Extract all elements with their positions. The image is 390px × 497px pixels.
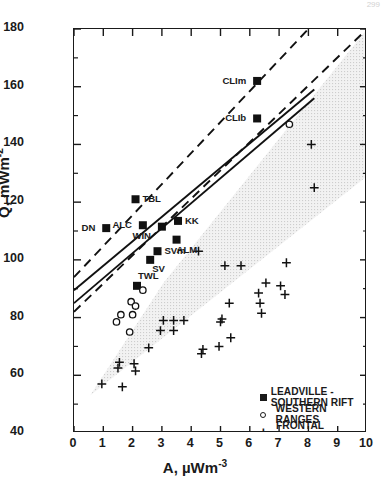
- point-label-WIN: WIN: [133, 231, 151, 241]
- data-point-plus: [131, 367, 140, 376]
- y-tick-40: 40: [0, 424, 24, 438]
- point-label-CLIb: CLIb: [225, 113, 246, 123]
- data-point-filled-square: [132, 195, 140, 203]
- point-label-TWL: TWL: [138, 271, 158, 281]
- point-label-ALC: ALC: [112, 220, 131, 230]
- data-point-filled-square: [253, 77, 261, 85]
- data-point-plus: [257, 309, 266, 318]
- y-tick-60: 60: [0, 366, 24, 380]
- data-point-filled-square: [139, 221, 147, 229]
- x-axis-title-exponent: -3: [218, 458, 227, 469]
- data-point-open-circle: [118, 311, 124, 317]
- data-point-open-circle: [286, 121, 292, 127]
- plus-icon: +: [260, 428, 276, 433]
- chart-legend: LEADVILLE - SOUTHERN RIFT WESTERN RANGES…: [260, 389, 365, 432]
- y-axis-title-exponent: -2: [0, 148, 5, 157]
- y-tick-120: 120: [0, 193, 24, 207]
- data-point-open-circle: [113, 319, 119, 325]
- x-tick-10: 10: [351, 436, 381, 450]
- y-tick-100: 100: [0, 251, 24, 265]
- x-tick-3: 3: [146, 436, 176, 450]
- open-circle-icon: [260, 412, 276, 418]
- point-label-TBL: TBL: [143, 194, 161, 204]
- plot-canvas: [74, 29, 366, 432]
- data-point-plus: [282, 258, 291, 267]
- data-point-open-circle: [140, 287, 146, 293]
- x-tick-1: 1: [87, 436, 117, 450]
- x-axis-title: A, µWm-3: [0, 458, 390, 476]
- data-point-plus: [254, 289, 263, 298]
- data-point-plus: [262, 279, 271, 288]
- point-label-SVm: SVm: [165, 246, 186, 256]
- x-tick-6: 6: [234, 436, 264, 450]
- legend-item-frontal-ranges: + FRONTAL RANGES: [260, 423, 365, 432]
- data-point-plus: [215, 342, 224, 351]
- y-axis-title: Q, mWm-2: [0, 148, 12, 218]
- x-tick-0: 0: [58, 436, 88, 450]
- data-point-plus: [256, 299, 265, 308]
- data-point-plus: [118, 382, 127, 391]
- data-point-plus: [276, 281, 285, 290]
- x-tick-8: 8: [292, 436, 322, 450]
- data-point-filled-square: [102, 224, 110, 232]
- running-head: [14, 0, 314, 11]
- x-tick-5: 5: [205, 436, 235, 450]
- y-tick-180: 180: [0, 20, 24, 34]
- x-tick-7: 7: [263, 436, 293, 450]
- point-label-CLIm: CLIm: [223, 76, 247, 86]
- y-tick-80: 80: [0, 309, 24, 323]
- data-point-plus: [197, 349, 206, 358]
- data-point-open-circle: [126, 329, 132, 335]
- filled-square-icon: [260, 394, 271, 401]
- legend-label-frontal-ranges: FRONTAL RANGES: [276, 421, 365, 432]
- x-axis-title-base: A, µWm: [163, 459, 218, 476]
- x-tick-4: 4: [175, 436, 205, 450]
- data-point-filled-square: [253, 114, 261, 122]
- data-point-filled-square: [154, 247, 162, 255]
- data-point-open-circle: [132, 303, 138, 309]
- point-label-DN: DN: [82, 223, 96, 233]
- x-tick-9: 9: [322, 436, 352, 450]
- data-point-open-circle: [129, 311, 135, 317]
- data-point-plus: [281, 290, 290, 299]
- point-label-KK: KK: [185, 216, 199, 226]
- x-tick-2: 2: [117, 436, 147, 450]
- y-tick-140: 140: [0, 135, 24, 149]
- page-number: 299: [367, 0, 380, 9]
- data-point-plus: [226, 333, 235, 342]
- data-point-plus: [199, 345, 208, 354]
- data-point-filled-square: [173, 236, 181, 244]
- y-tick-160: 160: [0, 78, 24, 92]
- y-axis-title-base: Q, mWm: [0, 157, 12, 218]
- data-point-filled-square: [174, 217, 182, 225]
- data-point-filled-square: [158, 223, 166, 231]
- plot-area: DNTBLALCWINKKALMSVmSVTWLCLImCLIb LEADVIL…: [73, 28, 366, 432]
- figure-heat-flow-vs-heat-production: 299 Q, mWm-2 A, µWm-3 406080100120140160…: [0, 0, 390, 497]
- data-point-plus: [225, 299, 234, 308]
